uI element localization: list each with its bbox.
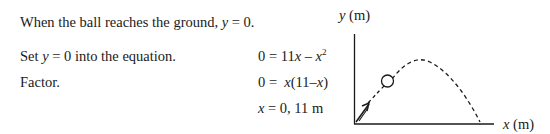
- ball-icon: [382, 75, 394, 87]
- velocity-arrow-icon: [356, 103, 369, 122]
- trajectory-path: [368, 60, 480, 122]
- trajectory-graph: [0, 0, 550, 134]
